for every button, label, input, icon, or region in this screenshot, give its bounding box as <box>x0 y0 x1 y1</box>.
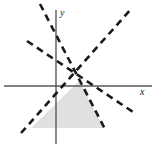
graph-figure: y x <box>0 0 156 154</box>
x-axis-label: x <box>140 87 144 97</box>
plot-canvas <box>0 0 156 154</box>
y-axis-label: y <box>60 8 64 18</box>
